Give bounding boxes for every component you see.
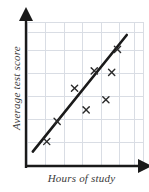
plot-canvas [0,0,149,192]
data-point-x-marker [54,118,60,124]
data-point-x-marker [103,97,109,103]
y-axis-label: Average test score [10,33,22,143]
x-axis-label: Hours of study [0,172,149,184]
data-point-x-marker [71,85,77,91]
data-point-x-marker [109,69,115,75]
trend-line [33,35,127,152]
data-point-x-marker [44,138,50,144]
data-point-x-marker [83,107,89,113]
data-point-markers [44,46,121,144]
scatter-plot-figure: Average test score Hours of study [0,0,149,192]
line-of-best-fit [33,35,127,152]
